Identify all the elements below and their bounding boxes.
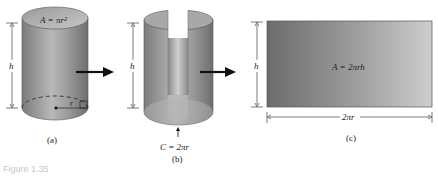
height-dimension-a: h	[6, 23, 18, 108]
panel-label-a: (a)	[47, 135, 57, 145]
width-label-c: 2πr	[342, 112, 355, 122]
height-dimension-c: h	[251, 22, 263, 107]
panel-label-c: (c)	[346, 133, 356, 143]
inner-back-surface	[168, 35, 188, 95]
height-label-a: h	[9, 61, 14, 71]
cylinder-b-base	[144, 99, 213, 125]
height-dimension-b: h	[127, 23, 139, 108]
panel-c: h A = 2πrh 2πr (c)	[251, 21, 432, 143]
circumference-formula: C = 2πr	[160, 142, 190, 152]
height-label-b: h	[130, 61, 135, 71]
panel-a: h A = πr² r (a)	[6, 7, 88, 145]
width-dimension-c: 2πr	[267, 112, 432, 123]
cylinder-surface-area-diagram: h A = πr² r (a) h	[0, 0, 438, 178]
lateral-area-formula: A = 2πrh	[331, 62, 365, 72]
panel-label-b: (b)	[172, 154, 183, 164]
height-label-c: h	[254, 61, 259, 71]
cut-slit	[168, 2, 188, 38]
figure-caption: Figure 1.35	[3, 164, 49, 174]
panel-b: h C = 2πr (b)	[127, 2, 213, 164]
cylinder-a-body	[22, 18, 88, 120]
top-area-formula: A = πr²	[39, 15, 67, 25]
